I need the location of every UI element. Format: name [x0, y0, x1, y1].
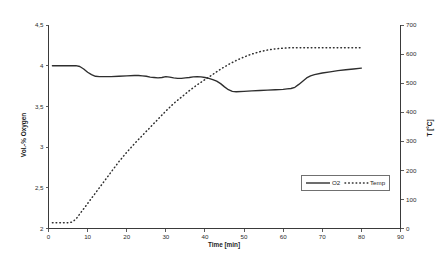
- left-tick-label: 4,5: [35, 21, 44, 28]
- bottom-tick-label: 0: [47, 233, 51, 240]
- bottom-axis-title: Time [min]: [208, 241, 240, 249]
- left-tick-label: 4: [40, 62, 44, 69]
- right-tick-label: 600: [406, 50, 417, 57]
- bottom-tick-label: 60: [280, 233, 287, 240]
- bottom-tick-label: 70: [319, 233, 326, 240]
- bottom-tick-label: 40: [201, 233, 208, 240]
- bottom-tick-label: 90: [397, 233, 404, 240]
- left-tick-label: 2: [40, 225, 44, 232]
- legend-label-temp: Temp: [370, 179, 386, 186]
- bottom-tick-label: 10: [84, 233, 91, 240]
- right-tick-label: 0: [406, 225, 410, 232]
- bottom-tick-label: 20: [123, 233, 130, 240]
- right-tick-label: 500: [406, 79, 417, 86]
- chart-legend[interactable]: O2 Temp: [302, 176, 390, 191]
- chart-figure: 22,533,544,5 0100200300400500600700 0102…: [0, 0, 448, 260]
- bottom-tick-label: 50: [241, 233, 248, 240]
- right-tick-label: 700: [406, 21, 417, 28]
- bottom-tick-label: 80: [358, 233, 365, 240]
- right-axis-title: T [°C]: [426, 119, 434, 136]
- chart-svg: 22,533,544,5 0100200300400500600700 0102…: [0, 0, 448, 260]
- legend-label-o2: O2: [332, 179, 341, 186]
- figure-background: [0, 0, 448, 260]
- left-tick-label: 3: [40, 143, 44, 150]
- bottom-tick-label: 30: [162, 233, 169, 240]
- right-tick-label: 200: [406, 167, 417, 174]
- left-tick-label: 3,5: [35, 103, 44, 110]
- left-tick-label: 2,5: [35, 184, 44, 191]
- right-tick-label: 400: [406, 108, 417, 115]
- right-tick-label: 300: [406, 137, 417, 144]
- right-tick-label: 100: [406, 196, 417, 203]
- left-axis-title: Vol.-% Oxygen: [20, 113, 28, 157]
